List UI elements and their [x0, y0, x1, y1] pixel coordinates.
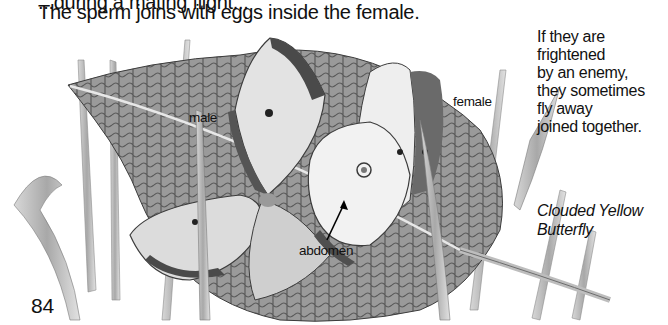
species-caption: Clouded Yellow Butterfly: [537, 201, 643, 239]
side-note-line: If they are: [537, 28, 667, 46]
page-number: 84: [31, 294, 54, 317]
side-note-line: fly away: [537, 100, 667, 118]
caption-line: Butterfly: [537, 220, 643, 239]
caption-line: Clouded Yellow: [537, 201, 643, 220]
label-male: male: [189, 111, 217, 126]
intro-sentence: The sperm joins with eggs inside the fem…: [38, 1, 419, 23]
side-note-line: joined together.: [537, 118, 667, 136]
side-note-frightened: If they are frightened by an enemy, they…: [537, 28, 667, 136]
side-note-line: they sometimes: [537, 82, 667, 100]
side-note-line: by an enemy,: [537, 64, 667, 82]
side-note-line: frightened: [537, 46, 667, 64]
label-abdomen: abdomen: [299, 244, 353, 259]
label-female: female: [453, 95, 492, 110]
